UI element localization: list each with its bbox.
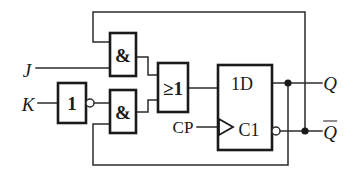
d-flip-flop-data-input-label: 1D <box>231 75 253 93</box>
output-label-qbar: Q <box>323 121 337 142</box>
not-gate-output-bubble <box>86 99 94 107</box>
input-label-cp: CP <box>173 119 194 136</box>
d-flip-flop-qbar-bubble <box>272 127 280 135</box>
and-gate-bottom-symbol: & <box>115 103 131 122</box>
or-gate-symbol: ≥1 <box>163 79 183 98</box>
junction-dot-q <box>284 79 291 86</box>
not-gate-symbol: 1 <box>67 94 77 113</box>
and-gate-top-symbol: & <box>115 46 131 65</box>
output-label-q: Q <box>323 74 337 93</box>
wire-and-bottom-to-or <box>136 100 158 112</box>
logic-circuit-diagram: 1 & & ≥1 1D C1 J K CP Q Q <box>0 0 362 183</box>
input-label-k: K <box>22 95 35 114</box>
wire-and-top-to-or <box>136 57 158 75</box>
junction-dot-qbar <box>301 127 308 134</box>
input-label-j: J <box>23 61 31 80</box>
d-flip-flop-clock-input-label: C1 <box>238 121 259 139</box>
output-label-qbar-text: Q <box>323 121 337 142</box>
